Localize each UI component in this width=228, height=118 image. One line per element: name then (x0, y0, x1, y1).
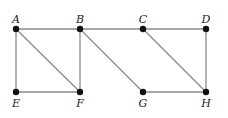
edge-b-g (80, 29, 143, 92)
node-h (203, 89, 209, 95)
node-label-e: E (11, 97, 20, 110)
node-label-h: H (200, 97, 211, 110)
edge-a-f (16, 29, 80, 92)
edges-group (16, 29, 206, 92)
node-f (77, 89, 83, 95)
node-label-c: C (139, 13, 148, 26)
node-d (203, 26, 209, 32)
node-g (140, 89, 146, 95)
node-e (13, 89, 19, 95)
node-label-f: F (75, 97, 84, 110)
node-a (13, 26, 19, 32)
node-label-g: G (139, 97, 148, 110)
node-label-d: D (201, 13, 211, 26)
node-label-b: B (75, 13, 84, 26)
nodes-group: ABCDEFGH (11, 13, 211, 110)
graph-diagram: ABCDEFGH (0, 0, 228, 118)
node-b (77, 26, 83, 32)
edge-c-h (143, 29, 206, 92)
node-label-a: A (11, 13, 20, 26)
node-c (140, 26, 146, 32)
